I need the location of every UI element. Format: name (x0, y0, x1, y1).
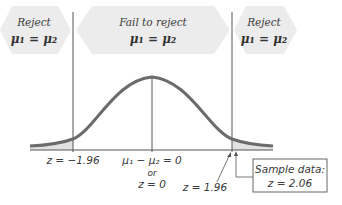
right-critical-label: z = 1.96 (182, 181, 228, 193)
fail-to-reject-hypothesis: μ₁ = μ₂ (130, 32, 177, 46)
sample-arrow-head (234, 151, 238, 156)
center-label-or: or (147, 168, 158, 178)
center-label-line2: z = 0 (137, 178, 166, 190)
fail-to-reject-title: Fail to reject (118, 16, 187, 28)
critical-arrow-line (217, 154, 230, 182)
left-reject-title: Reject (16, 16, 51, 28)
left-critical-label: z = −1.96 (45, 154, 99, 166)
fail-to-reject-band (76, 6, 230, 54)
sample-data-line2: z = 2.06 (267, 177, 313, 189)
sample-arrow-line (236, 154, 253, 177)
right-reject-band (234, 6, 297, 54)
hypothesis-test-diagram: Reject μ₁ = μ₂ Fail to reject μ₁ = μ₂ Re… (0, 0, 342, 205)
left-reject-hypothesis: μ₁ = μ₂ (11, 32, 58, 46)
right-reject-hypothesis: μ₁ = μ₂ (241, 32, 288, 46)
center-label-line1: μ₁ − μ₂ = 0 (121, 154, 182, 166)
sample-data-line1: Sample data: (255, 163, 325, 175)
right-reject-title: Reject (246, 16, 281, 28)
critical-arrow-head (227, 152, 231, 157)
left-reject-band (0, 6, 71, 54)
